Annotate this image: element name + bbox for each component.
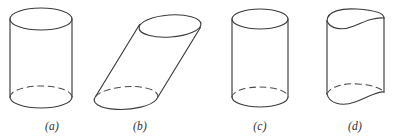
panel-d-top-front-wave [327,18,384,29]
panel-d-bottom-front-wave [327,92,384,104]
panel-b-top-ellipse [138,13,201,39]
panel-c-caption: (c) [253,120,266,133]
panel-a-caption: (a) [45,120,59,133]
panel-a-bottom-front-arc [10,97,72,108]
panel-a-bottom-back-arc-dashed [10,86,72,97]
panel-b-bottom-front-arc [94,97,156,110]
panel-a-top-ellipse [10,8,72,30]
panel-d-group: (d) [327,9,384,133]
panel-b-right-slant-wall [156,28,200,100]
panel-d-top-back-curve [327,9,384,21]
panel-b-caption: (b) [133,120,147,133]
panel-b-left-slant-wall [96,25,140,97]
panel-d-bottom-back-curve-dashed [327,84,384,94]
panel-c-group: (c) [232,9,288,133]
cylinder-figure: (a) (b) (c) [0,0,401,139]
panel-b-group: (b) [94,13,202,133]
panel-c-bottom-back-arc-dashed [232,87,288,97]
panel-b-bottom-back-arc-dashed [96,87,158,100]
panel-a-group: (a) [10,8,72,133]
cylinder-figure-svg: (a) (b) (c) [0,0,401,139]
panel-c-top-ellipse [232,9,288,29]
panel-d-caption: (d) [348,120,362,133]
panel-c-bottom-front-arc [232,97,288,107]
